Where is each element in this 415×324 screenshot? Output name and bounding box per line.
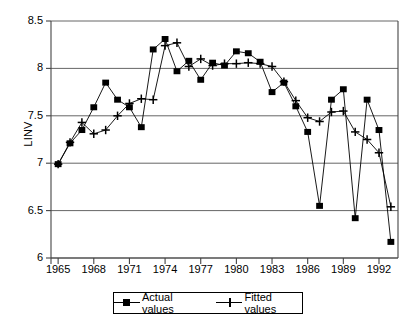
data-point-marker (316, 203, 323, 209)
legend-entry-actual: Actual values (114, 291, 202, 315)
data-point-marker (376, 127, 383, 133)
data-point-marker (102, 80, 109, 86)
square-marker-icon (114, 298, 138, 308)
data-point-marker (352, 215, 359, 221)
data-point-marker (328, 97, 335, 103)
chart-canvas (0, 0, 415, 324)
y-tick-label: 6 (0, 252, 43, 263)
y-tick-label: 7 (0, 157, 43, 168)
legend-label-actual: Actual values (142, 291, 202, 315)
data-point-marker (340, 86, 347, 92)
y-tick-label: 8.5 (0, 15, 43, 26)
data-point-marker (197, 77, 204, 83)
y-tick-label: 7.5 (0, 110, 43, 121)
chart-figure: LINV 8.587.576.56 1965196819711974197719… (0, 0, 415, 324)
y-tick-label: 8 (0, 62, 43, 73)
legend-entry-fitted: Fitted values (216, 291, 302, 315)
data-point-marker (245, 50, 252, 56)
data-point-marker (364, 97, 371, 103)
data-point-marker (150, 46, 157, 52)
data-point-marker (78, 127, 85, 133)
x-tick-label: 1992 (356, 264, 402, 275)
data-point-marker (114, 97, 121, 103)
legend-label-fitted: Fitted values (244, 291, 302, 315)
data-point-marker (269, 89, 276, 95)
data-point-marker (90, 104, 97, 110)
data-point-marker (138, 124, 145, 130)
plus-marker-icon (216, 298, 240, 308)
y-tick-label: 6.5 (0, 205, 43, 216)
series-line (58, 39, 391, 242)
data-point-marker (387, 239, 394, 245)
data-point-marker (174, 68, 181, 74)
data-point-marker (162, 36, 169, 42)
data-point-marker (233, 48, 240, 54)
chart-legend: Actual values Fitted values (113, 292, 303, 314)
data-point-marker (304, 129, 311, 135)
